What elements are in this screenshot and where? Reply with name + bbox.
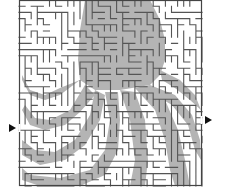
maze-canvas (0, 0, 225, 191)
